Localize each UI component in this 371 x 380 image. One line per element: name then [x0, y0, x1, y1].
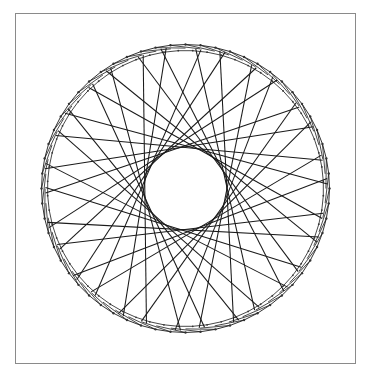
- ring-dot: [47, 195, 49, 197]
- ring-dot: [140, 324, 142, 326]
- ring-dot: [328, 172, 330, 174]
- ring-dot: [243, 319, 245, 321]
- ring-dot: [48, 166, 50, 168]
- ring-dot: [214, 328, 216, 330]
- ring-dot: [56, 237, 58, 239]
- ring-dot: [325, 217, 327, 219]
- star-polygon-figure: [0, 0, 371, 380]
- ring-dot: [88, 80, 90, 82]
- ring-dot: [47, 232, 49, 234]
- ring-dot: [292, 101, 294, 103]
- ring-dot: [47, 180, 49, 182]
- ring-dot: [60, 115, 62, 117]
- chord-line: [46, 107, 300, 193]
- ring-dot: [100, 304, 102, 306]
- chord-line: [81, 282, 101, 305]
- outer-ring-band: [42, 45, 330, 333]
- ring-dot: [313, 237, 315, 239]
- chord-line: [69, 84, 92, 104]
- ring-dot: [69, 112, 71, 114]
- ring-dot: [271, 80, 273, 82]
- ring-dot: [68, 103, 70, 105]
- ring-dot: [48, 209, 50, 211]
- ring-dot: [43, 217, 45, 219]
- chord-line: [48, 196, 50, 210]
- ring-dot: [318, 223, 320, 225]
- ring-dot: [247, 311, 249, 313]
- ring-dot: [322, 180, 324, 182]
- ring-dot: [154, 46, 156, 48]
- ring-dot: [247, 65, 249, 67]
- ring-dot: [300, 263, 302, 265]
- ring-dot: [43, 157, 45, 159]
- ring-dot: [62, 250, 64, 252]
- ring-dot: [271, 295, 273, 297]
- chord-line: [199, 65, 252, 328]
- chord-line: [196, 49, 255, 310]
- chord-line: [123, 311, 136, 317]
- ring-dot: [282, 90, 284, 92]
- ring-dot: [77, 101, 79, 103]
- ring-dot: [140, 50, 142, 52]
- ring-dot: [87, 90, 89, 92]
- ring-dot: [126, 319, 128, 321]
- ring-dot: [68, 272, 70, 274]
- chord-line: [63, 113, 70, 126]
- ring-dot: [98, 80, 100, 82]
- chord-line: [150, 322, 164, 325]
- ring-dot: [53, 129, 55, 131]
- ring-dot: [281, 294, 283, 296]
- ring-dot: [229, 50, 231, 52]
- chord-line: [235, 60, 248, 66]
- ring-dot: [41, 172, 43, 174]
- ring-dot: [321, 232, 323, 234]
- ring-dot: [163, 51, 165, 53]
- ring-dot: [234, 316, 236, 318]
- ring-dot: [184, 331, 186, 333]
- ring-dot: [40, 187, 42, 189]
- ring-dot: [77, 284, 79, 286]
- ring-dot: [291, 284, 293, 286]
- chord-line: [89, 87, 323, 218]
- chord-line: [61, 95, 81, 117]
- ring-dot: [229, 324, 231, 326]
- ring-dot: [169, 44, 171, 46]
- ring-dot: [301, 272, 303, 274]
- chord-line: [207, 52, 221, 55]
- ring-dot: [77, 274, 79, 276]
- chord-line: [48, 167, 50, 181]
- chord-line: [63, 251, 70, 264]
- ring-dot: [51, 152, 53, 154]
- chord-line: [301, 113, 308, 126]
- ring-dot: [98, 295, 100, 297]
- ring-dot: [260, 303, 262, 305]
- chord-line: [138, 57, 298, 272]
- ring-dot: [112, 312, 114, 314]
- chord-line: [56, 136, 323, 161]
- ring-dot: [199, 331, 201, 333]
- chord-line: [78, 75, 102, 92]
- chord-line: [92, 293, 114, 313]
- ring-dot: [126, 56, 128, 58]
- ring-dot: [322, 195, 324, 197]
- ring-dot: [220, 321, 222, 323]
- ring-dot: [269, 304, 271, 306]
- ring-dot: [62, 125, 64, 127]
- chord-line: [282, 81, 299, 105]
- ring-dot: [214, 46, 216, 48]
- ring-dot: [292, 274, 294, 276]
- ring-dot: [309, 115, 311, 117]
- chord-line: [128, 317, 155, 330]
- ring-dot: [53, 246, 55, 248]
- chord-line: [322, 167, 324, 181]
- ring-dot: [301, 103, 303, 105]
- ring-dot: [192, 50, 194, 52]
- ring-dot: [184, 43, 186, 45]
- ring-dot: [135, 59, 137, 61]
- ring-dot: [321, 143, 323, 145]
- ring-dot: [51, 223, 53, 225]
- ring-dot: [256, 312, 258, 314]
- ring-dot: [149, 321, 151, 323]
- ring-dot: [260, 72, 262, 74]
- ring-dot: [149, 54, 151, 56]
